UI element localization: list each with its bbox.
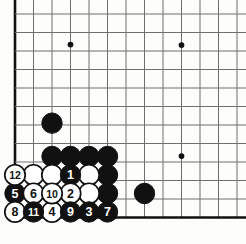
- white-group-stone: [23, 165, 43, 185]
- go-board-canvas: 123456789101112: [0, 0, 246, 244]
- stone-number-label-2: 2: [67, 187, 74, 201]
- go-board-diagram: 123456789101112: [0, 0, 246, 244]
- stone-number-label-3: 3: [86, 205, 93, 219]
- stone-number-label-4: 4: [49, 205, 56, 219]
- black-wall-stone: [42, 146, 62, 166]
- white-group-stone: [42, 165, 62, 185]
- stone-number-label-12: 12: [9, 169, 21, 181]
- star-point: [68, 42, 74, 48]
- stone-number-label-5: 5: [12, 187, 19, 201]
- star-point: [179, 153, 185, 159]
- white-group-stone: [79, 183, 99, 203]
- stone-number-label-8: 8: [12, 205, 19, 219]
- stone-number-label-9: 9: [67, 205, 74, 219]
- black-wall-stone: [79, 146, 99, 166]
- black-stone-right: [134, 183, 154, 203]
- stone-number-label-6: 6: [30, 187, 37, 201]
- black-wall-stone: [97, 183, 117, 203]
- stones-layer: 123456789101112: [5, 113, 155, 222]
- star-point: [179, 42, 185, 48]
- black-wall-stone: [97, 146, 117, 166]
- white-group-stone: [79, 165, 99, 185]
- black-wall-stone: [60, 146, 80, 166]
- stone-number-label-11: 11: [28, 206, 39, 218]
- black-wall-stone: [97, 165, 117, 185]
- stone-number-label-7: 7: [104, 205, 111, 219]
- black-stone-outpost: [42, 113, 62, 133]
- stone-number-label-10: 10: [46, 188, 58, 200]
- stone-number-label-1: 1: [67, 168, 74, 182]
